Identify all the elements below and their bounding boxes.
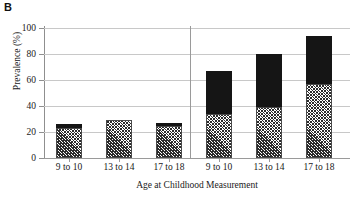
gridline-60 bbox=[44, 80, 350, 81]
bar-group1-13to14 bbox=[106, 120, 132, 158]
gridline-80 bbox=[44, 54, 350, 55]
gridline-20 bbox=[44, 132, 350, 133]
bar-segment-solid bbox=[156, 123, 182, 126]
gridline-100 bbox=[44, 28, 350, 29]
bar-segment-hatched bbox=[256, 107, 282, 158]
y-tick-label-40: 40 bbox=[6, 102, 36, 112]
bar-segment-solid bbox=[56, 124, 82, 128]
bar-group2-9to10 bbox=[206, 71, 232, 158]
x-axis-title: Age at Childhood Measurement bbox=[44, 180, 350, 191]
bar-segment-solid bbox=[306, 36, 332, 84]
bar-segment-hatched bbox=[56, 128, 82, 158]
figure-panel-b: B Prevalence (%) 100 80 60 40 20 0 bbox=[0, 0, 356, 200]
panel-label: B bbox=[4, 1, 12, 13]
bar-segment-hatched bbox=[306, 84, 332, 158]
gridline-0 bbox=[44, 158, 350, 159]
bar-group2-13to14 bbox=[256, 54, 282, 158]
y-tick-label-80: 80 bbox=[6, 50, 36, 60]
bar-group1-9to10 bbox=[56, 124, 82, 158]
y-tick-label-60: 60 bbox=[6, 76, 36, 86]
bar-group1-17to18 bbox=[156, 123, 182, 158]
gridline-40 bbox=[44, 106, 350, 107]
bar-group2-17to18 bbox=[306, 36, 332, 158]
bar-segment-solid bbox=[206, 71, 232, 114]
x-tick-label-6: 17 to 18 bbox=[289, 162, 349, 172]
group-divider bbox=[190, 26, 191, 159]
bar-segment-hatched bbox=[206, 114, 232, 158]
bar-segment-hatched bbox=[106, 120, 132, 158]
y-tick-label-20: 20 bbox=[6, 128, 36, 138]
plot-area bbox=[44, 28, 350, 158]
y-tick-label-0: 0 bbox=[6, 154, 36, 164]
y-tick-label-100: 100 bbox=[6, 24, 36, 34]
bar-segment-hatched bbox=[156, 126, 182, 159]
bar-segment-solid bbox=[256, 54, 282, 107]
